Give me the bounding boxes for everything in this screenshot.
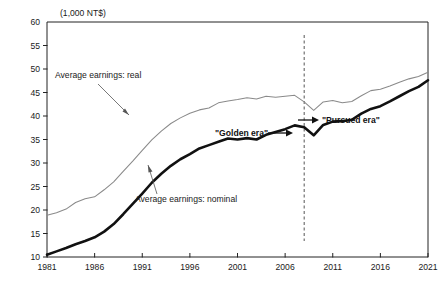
x-tick-label: 1991 bbox=[133, 262, 152, 272]
x-tick-label: 2001 bbox=[228, 262, 247, 272]
x-tick-label: 1996 bbox=[180, 262, 199, 272]
x-axis-ticks: 198119861991199620012006201120162021 bbox=[37, 253, 437, 272]
series-line-nominal bbox=[47, 80, 428, 254]
x-tick-label: 2021 bbox=[418, 262, 437, 272]
y-tick-label: 25 bbox=[30, 182, 40, 192]
y-tick-label: 45 bbox=[30, 88, 40, 98]
y-tick-label: 30 bbox=[30, 158, 40, 168]
pursued-era-arrowhead bbox=[312, 117, 319, 124]
series-line-real bbox=[47, 72, 428, 215]
y-tick-label: 35 bbox=[30, 135, 40, 145]
y-tick-label: 50 bbox=[30, 64, 40, 74]
pursued-era-label: "Pursued era" bbox=[322, 115, 380, 125]
x-tick-label: 2016 bbox=[371, 262, 390, 272]
y-axis-ticks: 1015202530354045505560 bbox=[30, 17, 47, 262]
series-label-real: Average earnings: real bbox=[55, 70, 141, 80]
series-label-nominal: Average earnings: nominal bbox=[135, 194, 237, 204]
x-tick-label: 2006 bbox=[276, 262, 295, 272]
y-tick-label: 60 bbox=[30, 17, 40, 27]
y-axis-unit-label: (1,000 NT$) bbox=[60, 8, 106, 18]
x-tick-label: 1981 bbox=[37, 262, 56, 272]
annotation-leaders bbox=[98, 84, 319, 194]
golden-era-label: "Golden era" bbox=[215, 128, 268, 138]
y-tick-label: 20 bbox=[30, 205, 40, 215]
y-tick-label: 15 bbox=[30, 229, 40, 239]
chart-canvas: (1,000 NT$) 1015202530354045505560 19811… bbox=[0, 0, 447, 286]
x-tick-label: 2011 bbox=[324, 262, 343, 272]
y-tick-label: 55 bbox=[30, 41, 40, 51]
x-tick-label: 1986 bbox=[85, 262, 104, 272]
golden-era-arrowhead bbox=[286, 130, 293, 137]
y-tick-label: 10 bbox=[30, 252, 40, 262]
nominal-label-arrowhead bbox=[148, 165, 153, 173]
earnings-line-chart: (1,000 NT$) 1015202530354045505560 19811… bbox=[0, 0, 447, 286]
y-tick-label: 40 bbox=[30, 111, 40, 121]
